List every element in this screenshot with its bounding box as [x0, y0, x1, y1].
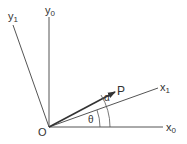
y1-axis — [13, 25, 49, 127]
label-theta: θ — [88, 114, 94, 125]
label-x0: x0 — [166, 121, 177, 135]
label-origin: O — [38, 126, 47, 138]
label-alpha: α — [104, 92, 110, 103]
label-x1: x1 — [160, 81, 171, 95]
label-y1: y1 — [8, 10, 19, 24]
label-point: P — [117, 84, 125, 98]
theta-arc — [97, 110, 100, 127]
coordinate-rotation-diagram: y1 y0 x1 x0 O P α θ — [0, 0, 187, 144]
label-y0: y0 — [45, 4, 56, 18]
